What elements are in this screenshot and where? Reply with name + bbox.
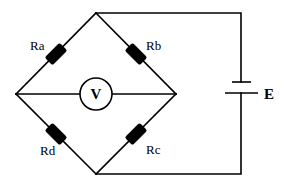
wire-battery-to-bottom	[96, 93, 241, 174]
resistor-rc-label: Rc	[146, 142, 161, 157]
resistor-rd-body	[45, 123, 66, 144]
battery-symbol	[225, 82, 258, 93]
resistor-rc	[125, 123, 146, 144]
wheatstone-bridge-diagram: E Ra Rb Rc Rd V	[0, 0, 291, 180]
resistor-rd-label: Rd	[40, 143, 56, 158]
resistor-rc-body	[125, 123, 146, 144]
battery-label: E	[264, 86, 274, 102]
voltmeter-label: V	[91, 86, 102, 102]
voltmeter: V	[80, 78, 112, 110]
resistor-ra-label: Ra	[30, 38, 45, 53]
wire-top-to-battery	[96, 13, 241, 82]
resistor-rb	[125, 43, 146, 64]
resistor-rb-label: Rb	[146, 38, 161, 53]
resistor-rb-body	[125, 43, 146, 64]
resistor-rd	[45, 123, 66, 144]
